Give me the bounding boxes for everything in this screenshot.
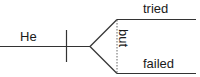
subject-label: He — [20, 29, 37, 44]
lower-branch-line — [90, 47, 117, 74]
conjunction-label: but — [116, 29, 131, 47]
predicate-1-label: tried — [143, 1, 168, 16]
predicate-2-label: failed — [143, 56, 174, 71]
sentence-diagram: He tried failed but — [0, 0, 200, 77]
upper-branch-line — [90, 20, 117, 47]
